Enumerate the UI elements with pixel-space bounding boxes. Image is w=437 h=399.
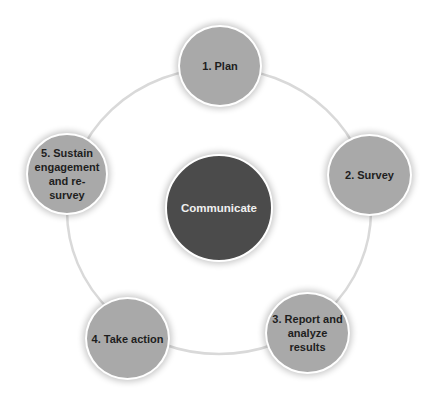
center-label: Communicate xyxy=(177,202,261,214)
step-node-survey: 2. Survey xyxy=(327,134,412,216)
step-label: 5. Sustain engagement and re-survey xyxy=(28,146,106,202)
step-node-report: 3. Report and analyze results xyxy=(265,292,350,374)
step-node-sustain: 5. Sustain engagement and re-survey xyxy=(26,133,108,215)
step-node-take-action: 4. Take action xyxy=(85,297,170,380)
center-node-communicate: Communicate xyxy=(165,154,273,262)
step-label: 3. Report and analyze results xyxy=(267,312,348,354)
step-node-plan: 1. Plan xyxy=(178,25,262,107)
step-label: 4. Take action xyxy=(88,332,168,346)
step-label: 2. Survey xyxy=(341,168,398,182)
step-label: 1. Plan xyxy=(198,59,241,73)
